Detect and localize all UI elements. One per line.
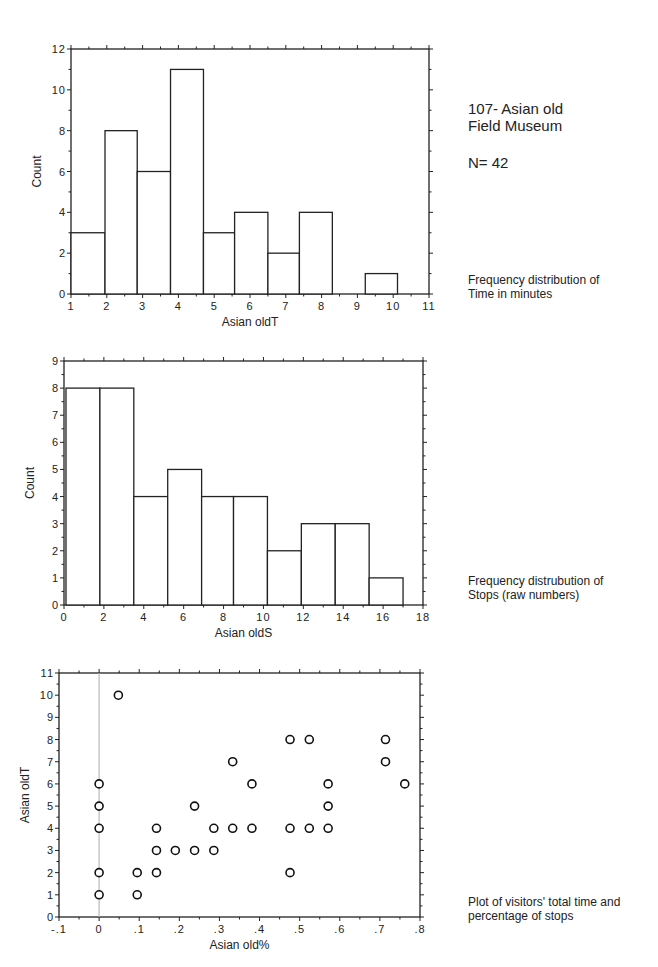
x-tick-label: .2: [174, 923, 185, 935]
caption-line: Time in minutes: [468, 287, 599, 301]
time-histogram-caption: Frequency distribution of Time in minute…: [468, 273, 599, 301]
scatter-point: [95, 780, 103, 788]
y-tick-label: 5: [47, 800, 54, 812]
histogram-bar: [100, 388, 134, 605]
x-tick-label: 4: [175, 300, 182, 312]
x-tick-label: 12: [296, 611, 310, 623]
histogram-bar: [268, 253, 300, 294]
x-tick-label: 8: [220, 611, 227, 623]
y-tick-label: 9: [52, 355, 59, 367]
y-tick-label: 2: [59, 247, 66, 259]
caption-line: Plot of visitors' total time and: [468, 895, 620, 909]
x-tick-label: 11: [422, 300, 435, 312]
x-tick-label: 7: [282, 300, 289, 312]
scatter-point: [382, 758, 390, 766]
scatter-point: [324, 780, 332, 788]
caption-line: Stops (raw numbers): [468, 588, 603, 602]
scatter-point: [324, 802, 332, 810]
y-tick-label: 0: [52, 599, 59, 611]
scatter-point: [305, 824, 313, 832]
y-tick-label: 3: [52, 518, 59, 530]
histogram-bar: [299, 212, 332, 294]
histogram-bar: [365, 274, 397, 294]
histogram-bar: [71, 233, 105, 294]
scatter-point: [210, 846, 218, 854]
x-tick-label: 4: [140, 611, 147, 623]
y-tick-label: 12: [52, 43, 66, 55]
y-tick-label: 2: [47, 867, 54, 879]
x-tick-label: 3: [139, 300, 146, 312]
stops-histogram: 0246810121416180123456789Asian oldSCount: [23, 355, 430, 640]
y-tick-label: 5: [52, 463, 59, 475]
scatter-point: [286, 736, 294, 744]
x-tick-label: -.1: [51, 923, 67, 935]
y-tick-label: 0: [47, 911, 54, 923]
scatter-point: [324, 824, 332, 832]
sample-size-label: N= 42: [468, 154, 508, 171]
histogram-bar: [369, 578, 403, 605]
scatter-point: [401, 780, 409, 788]
y-axis-label: Count: [30, 155, 44, 188]
y-tick-label: 8: [59, 125, 66, 137]
x-tick-label: .8: [414, 923, 425, 935]
x-tick-label: 2: [103, 300, 110, 312]
y-tick-label: 1: [52, 572, 59, 584]
scatter-point: [191, 846, 199, 854]
x-tick-label: 1: [67, 300, 74, 312]
x-tick-label: 0: [96, 923, 103, 935]
scatter-point: [229, 824, 237, 832]
x-tick-label: 5: [211, 300, 218, 312]
scatter-point: [286, 869, 294, 877]
x-tick-label: .5: [294, 923, 305, 935]
y-tick-label: 10: [40, 689, 54, 701]
scatter-point: [171, 846, 179, 854]
x-tick-label: .7: [374, 923, 385, 935]
y-tick-label: 6: [47, 778, 54, 790]
x-tick-label: 16: [376, 611, 390, 623]
histogram-bar: [66, 388, 100, 605]
histogram-bar: [134, 497, 168, 605]
charts-canvas: 1234567891011024681012Asian oldTCount024…: [0, 0, 658, 967]
study-title-line1: 107- Asian old: [468, 100, 563, 117]
x-tick-label: 6: [180, 611, 187, 623]
scatter-point: [229, 758, 237, 766]
y-tick-label: 1: [47, 889, 54, 901]
histogram-bar: [235, 212, 268, 294]
histogram-bar: [171, 69, 204, 294]
stops-histogram-caption: Frequency distrubution of Stops (raw num…: [468, 574, 603, 602]
caption-line: percentage of stops: [468, 909, 620, 923]
y-tick-label: 10: [52, 84, 66, 96]
y-tick-label: 6: [59, 166, 66, 178]
x-tick-label: 10: [256, 611, 270, 623]
scatter-point: [152, 824, 160, 832]
x-tick-label: 14: [336, 611, 350, 623]
time-vs-stops-scatter: -.10.1.2.3.4.5.6.7.801234567891011Asian …: [18, 667, 426, 952]
scatter-point: [114, 691, 122, 699]
scatter-point: [95, 802, 103, 810]
study-title-line2: Field Museum: [468, 117, 563, 134]
time-histogram: 1234567891011024681012Asian oldTCount: [30, 43, 436, 329]
histogram-bar: [105, 131, 137, 294]
y-tick-label: 4: [59, 206, 66, 218]
x-tick-label: 6: [246, 300, 253, 312]
x-tick-label: .1: [134, 923, 145, 935]
histogram-bar: [234, 497, 268, 605]
scatter-point: [210, 824, 218, 832]
x-tick-label: 0: [60, 611, 67, 623]
y-tick-label: 7: [52, 409, 59, 421]
histogram-bar: [168, 469, 202, 605]
y-tick-label: 7: [47, 756, 54, 768]
scatter-point: [152, 869, 160, 877]
plot-frame: [59, 673, 420, 917]
y-axis-label: Asian oldT: [18, 766, 32, 823]
histogram-bar: [203, 233, 234, 294]
y-tick-label: 3: [47, 844, 54, 856]
y-tick-label: 0: [59, 288, 66, 300]
histogram-bar: [301, 524, 335, 605]
scatter-point: [133, 891, 141, 899]
x-axis-label: Asian oldS: [215, 626, 272, 640]
y-tick-label: 4: [47, 822, 54, 834]
x-axis-label: Asian oldT: [222, 315, 279, 329]
x-tick-label: 8: [318, 300, 325, 312]
histogram-bar: [267, 551, 301, 605]
